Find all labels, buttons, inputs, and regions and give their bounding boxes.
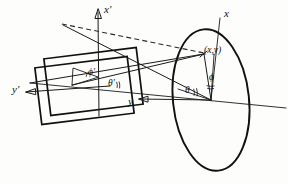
point-xy-label: (x,y) [204,46,221,56]
axis-x-label: x [224,8,229,19]
figure-root: x′ y′ x y ϕ′ θ′ ϕ θ (x,y) [0,0,288,184]
arc-phi-inner [207,88,214,89]
axis-y-primed-label: y′ [12,84,19,95]
angle-phi-primed-label: ϕ′ [88,68,95,78]
angle-arc-marks [86,72,215,96]
axis-x-primed-line [98,12,99,116]
arc-phi-outer [207,86,215,87]
axis-x-primed-label: x′ [104,4,111,15]
angle-theta-label: θ [185,86,190,96]
arc-theta-inner [194,89,195,96]
angle-theta-primed-label: θ′ [108,79,115,89]
angle-phi-label: ϕ [209,73,214,83]
arc-theta-primed-outer [119,82,120,89]
arc-theta-primed-inner [117,82,118,88]
axis-y-line [139,99,211,100]
axis-x-primed-group [95,9,101,116]
axis-y-label: y [128,96,133,107]
plane-rectangles-group [35,48,143,125]
figure-canvas [0,0,288,184]
